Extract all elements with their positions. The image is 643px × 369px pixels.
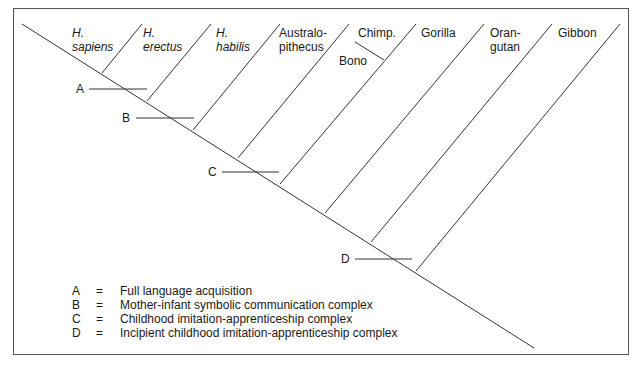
branch-gibbon [416, 24, 620, 271]
taxon-line1: Gibbon [558, 26, 597, 40]
taxon-line2: sapiens [72, 40, 113, 54]
taxon-line2: habilis [216, 40, 250, 54]
taxon-line1: H. [216, 26, 250, 40]
legend-equals: = [96, 298, 120, 312]
taxon-label-bono: Bono [339, 54, 367, 68]
legend-row-b: B = Mother-infant symbolic communication… [72, 298, 398, 312]
taxon-label-gibbon: Gibbon [558, 26, 597, 40]
taxon-line1: H. [72, 26, 113, 40]
legend-description: Incipient childhood imitation-apprentice… [120, 326, 398, 340]
taxon-line1: Bono [339, 54, 367, 68]
legend: A = Full language acquisition B = Mother… [72, 284, 398, 340]
legend-key: A [72, 284, 96, 298]
taxon-line1: Chimp. [358, 26, 396, 40]
taxon-label-gorilla: Gorilla [421, 26, 456, 40]
taxon-line1: H. [143, 26, 182, 40]
legend-description: Childhood imitation-apprenticeship compl… [120, 312, 352, 326]
legend-key: B [72, 298, 96, 312]
taxon-line2: erectus [143, 40, 182, 54]
legend-row-d: D = Incipient childhood imitation-appren… [72, 326, 398, 340]
legend-equals: = [96, 326, 120, 340]
legend-key: D [72, 326, 96, 340]
legend-row-c: C = Childhood imitation-apprenticeship c… [72, 312, 398, 326]
legend-description: Full language acquisition [120, 284, 252, 298]
taxon-label-chimp: Chimp. [358, 26, 396, 40]
legend-row-a: A = Full language acquisition [72, 284, 398, 298]
taxon-line1: Australo- [279, 26, 327, 40]
legend-description: Mother-infant symbolic communication com… [120, 298, 373, 312]
taxon-line1: Gorilla [421, 26, 456, 40]
branch-orangutan [371, 24, 552, 242]
marker-label-d: D [341, 252, 350, 266]
taxon-label-h-sapiens: H. sapiens [72, 26, 113, 54]
legend-equals: = [96, 312, 120, 326]
taxon-line2: gutan [490, 40, 521, 54]
taxon-label-h-erectus: H. erectus [143, 26, 182, 54]
branch-gorilla [325, 24, 484, 213]
marker-label-a: A [76, 82, 84, 96]
legend-key: C [72, 312, 96, 326]
marker-label-c: C [208, 165, 217, 179]
marker-label-b: B [122, 111, 130, 125]
legend-equals: = [96, 284, 120, 298]
taxon-label-h-habilis: H. habilis [216, 26, 250, 54]
taxon-line1: Oran- [490, 26, 521, 40]
taxon-label-orangutan: Oran- gutan [490, 26, 521, 54]
taxon-label-australopithecus: Australo- pithecus [279, 26, 327, 54]
taxon-line2: pithecus [279, 40, 327, 54]
